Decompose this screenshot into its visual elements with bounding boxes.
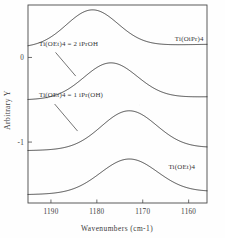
y-axis-ticks: 0-1 xyxy=(18,54,33,147)
x-axis-ticks: 1190118011701160 xyxy=(43,200,196,217)
curve-label: Ti(OEt)4 xyxy=(168,163,195,171)
y-tick-label: -1 xyxy=(18,139,25,147)
y-tick-label: 0 xyxy=(20,54,24,62)
spectrum-curve xyxy=(28,111,207,151)
x-axis-title: Wavenumbers (cm-1) xyxy=(81,224,153,233)
x-tick-label: 1160 xyxy=(181,208,196,216)
x-tick-label: 1170 xyxy=(135,208,150,216)
curve-label: Ti(OEt)4 = 1 iPr(OH) xyxy=(39,91,103,99)
spectra-figure: 1190118011701160 0-1 Ti(OiPr)4Ti(OEt)4 =… xyxy=(0,0,225,238)
annotation-leader-line xyxy=(56,52,76,76)
annotation-leader-line xyxy=(55,104,78,131)
curve-label: Ti(OiPr)4 xyxy=(175,35,204,43)
x-tick-label: 1180 xyxy=(89,208,104,216)
x-tick-label: 1190 xyxy=(43,208,58,216)
spectra-plot: 1190118011701160 0-1 Ti(OiPr)4Ti(OEt)4 =… xyxy=(0,0,225,238)
curve-label: Ti(OEt)4 = 2 iPrOH xyxy=(39,40,98,48)
y-axis-title: Arbitrary Y xyxy=(3,90,12,130)
curve-annotations: Ti(OiPr)4Ti(OEt)4 = 2 iPrOHTi(OEt)4 = 1 … xyxy=(39,35,204,172)
